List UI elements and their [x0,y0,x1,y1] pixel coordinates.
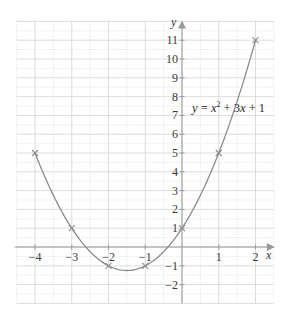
equation-label: y = x2 + 3x + 1 [190,100,265,115]
x-tick-label: −1 [139,250,152,264]
y-tick-label: 2 [172,202,178,216]
equation-equals: = [198,101,211,115]
y-tick-label: 7 [172,108,178,122]
y-tick-label: 6 [172,127,178,141]
y-tick-label: 3 [172,184,178,198]
y-tick-label: 4 [172,165,178,179]
x-tick-label: 1 [216,250,222,264]
y-tick-label: 1 [172,221,178,235]
equation-plus-1: + 1 [246,101,266,115]
x-tick-label: 2 [253,250,259,264]
y-tick-label: −2 [165,278,178,292]
y-tick-label: 5 [172,146,178,160]
x-axis-label: x [265,248,272,262]
y-tick-label: −1 [165,259,178,273]
tick-labels: −4−3−2−112−2−11234567891011 [29,33,259,291]
equation-plus-3: + 3 [220,101,240,115]
quadratic-graph: −4−3−2−112−2−11234567891011 y x y = x2 +… [0,0,287,316]
y-tick-label: 10 [166,52,178,66]
x-tick-label: −4 [29,250,42,264]
y-axis-label: y [170,15,177,29]
y-tick-label: 11 [166,33,178,47]
y-tick-label: 9 [172,71,178,85]
y-tick-label: 8 [172,90,178,104]
x-tick-label: −3 [65,250,78,264]
x-tick-label: −2 [102,250,115,264]
